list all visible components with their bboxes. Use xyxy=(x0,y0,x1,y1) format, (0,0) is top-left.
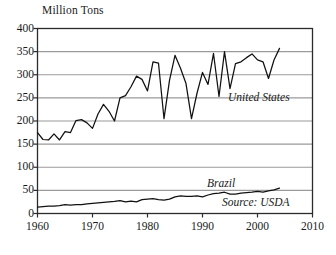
x-axis-tick-labels: 196019701980199020002010 xyxy=(0,0,336,255)
x-tick-label: 1970 xyxy=(81,221,104,233)
x-tick-label: 2010 xyxy=(301,221,324,233)
series-label-brazil: Brazil xyxy=(207,177,235,189)
x-tick-label: 1990 xyxy=(191,221,214,233)
x-tick-label: 1980 xyxy=(136,221,159,233)
chart-container: Million Tons 050100150200250300350400 19… xyxy=(0,0,336,255)
x-tick-label: 2000 xyxy=(246,221,269,233)
source-attribution-label: Source: USDA xyxy=(222,196,290,208)
x-tick-label: 1960 xyxy=(26,221,49,233)
series-label-united-states: United States xyxy=(228,91,290,103)
